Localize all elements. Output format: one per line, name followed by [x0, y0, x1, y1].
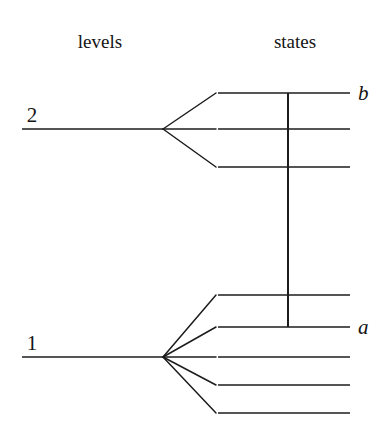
column-header-states: states	[274, 31, 316, 52]
state-label-a: a	[358, 315, 369, 339]
level-label-2: 2	[27, 103, 38, 127]
energy-level-diagram: levels states 2 1	[0, 0, 388, 441]
diagram-canvas: levels states 2 1	[0, 0, 388, 441]
diagram-background	[0, 0, 388, 441]
column-header-levels: levels	[78, 31, 122, 52]
state-label-b: b	[358, 81, 369, 105]
level-label-1: 1	[27, 331, 38, 355]
